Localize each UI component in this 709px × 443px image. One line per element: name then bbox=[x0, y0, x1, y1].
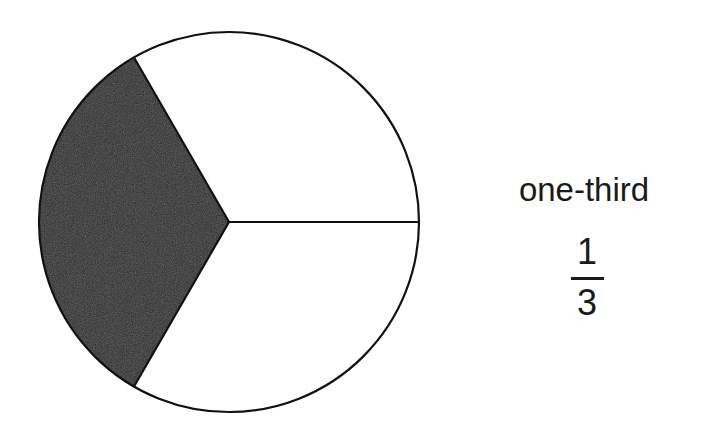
fraction-bar bbox=[571, 277, 604, 280]
fraction-denominator: 3 bbox=[577, 281, 597, 325]
fraction-numerator: 1 bbox=[577, 230, 597, 274]
fraction-word-label: one-third bbox=[498, 170, 670, 210]
fraction-notation: 1 3 bbox=[561, 230, 613, 325]
fraction-circle bbox=[0, 0, 460, 443]
